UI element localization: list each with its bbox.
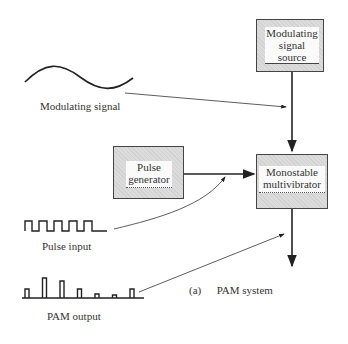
pam-pulse — [25, 289, 29, 298]
pam-pulse — [43, 278, 47, 298]
modulating-signal-waveform — [25, 66, 133, 88]
figure-caption-tag: (a) — [189, 284, 201, 296]
pam-pulse — [78, 289, 82, 298]
pam-pulse — [130, 289, 134, 298]
pulse-generator-label-line1: Pulse — [126, 161, 172, 173]
pam-output-pulses — [25, 278, 134, 298]
monostable-label-line2: multivibrator — [259, 178, 325, 190]
pulse-generator-label-line2: generator — [126, 173, 172, 185]
pulse-generator-block: Pulse generator — [113, 146, 184, 199]
pam-pulse — [60, 281, 64, 298]
figure-caption: (a) PAM system — [189, 284, 273, 296]
figure-caption-text: PAM system — [217, 284, 273, 296]
pam-output-label: PAM output — [47, 310, 101, 322]
monostable-multivibrator-block: Monostable multivibrator — [256, 154, 328, 209]
modulating-signal-source-block: Modulating signal source — [256, 19, 324, 72]
pulse-input-label: Pulse input — [42, 240, 91, 252]
modulating-signal-label: Modulating signal — [40, 100, 120, 112]
source-label-line3: source — [265, 51, 319, 63]
source-label-line2: signal — [265, 39, 319, 51]
monostable-label-line1: Monostable — [259, 166, 325, 178]
modulating-signal-pointer-arrow — [125, 93, 286, 107]
pulse-input-waveform — [25, 221, 107, 231]
source-label-line1: Modulating — [265, 27, 319, 39]
